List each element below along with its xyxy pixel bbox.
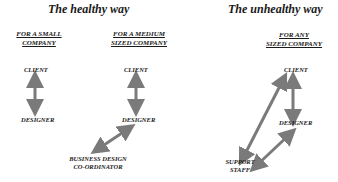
any-company-header: FOR ANY SIZED COMPANY	[264, 31, 324, 49]
designer-small: DESIGNER	[21, 116, 54, 124]
client-medium: CLIENT	[124, 66, 148, 74]
small-company-header: FOR A SMALL COMPANY	[14, 30, 64, 48]
designer-any: DESIGNER	[279, 119, 312, 127]
medium-company-header: FOR A MEDIUM SIZED COMPANY	[110, 30, 168, 48]
arrow-designer-coordinator	[98, 129, 128, 149]
arrow-designer-support	[256, 134, 290, 166]
client-small: CLIENT	[24, 66, 48, 74]
healthy-title: The healthy way	[48, 2, 129, 17]
designer-medium: DESIGNER	[122, 116, 155, 124]
support-staff-label: SUPPORT STAFF	[222, 158, 258, 174]
arrows-layer	[0, 0, 338, 182]
client-any: CLIENT	[284, 66, 308, 74]
unhealthy-title: The unhealthy way	[228, 2, 323, 17]
coordinator-label: BUSINESS DESIGN CO-ORDINATOR	[66, 155, 130, 171]
